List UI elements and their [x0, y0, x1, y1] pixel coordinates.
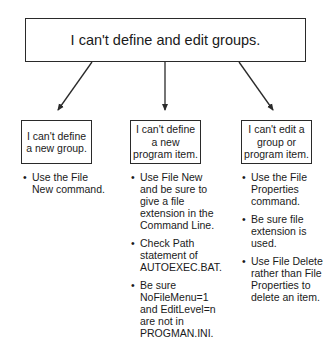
solution-item: • Use File Delete rather than File Prope… — [241, 255, 327, 303]
solution-item: • Use File New and be sure to give a fil… — [130, 171, 222, 231]
branch-box-new-group: I can't define a new group. — [21, 120, 92, 164]
branch-box-edit-group-or-item: I can't edit a group or program item. — [241, 120, 312, 164]
bullet-icon: • — [23, 171, 27, 183]
solution-text: Be sure NoFileMenu=1 and EditLevel=n are… — [140, 279, 216, 339]
solutions-list-edit-group-or-item: • Use the File Properties command. • Be … — [241, 171, 327, 309]
arrow-to-edit-group — [239, 62, 273, 110]
solution-text: Use the File New command. — [32, 171, 105, 195]
solution-item: • Be sure file extension is used. — [241, 213, 327, 249]
solutions-list-new-group: • Use the File New command. — [22, 171, 106, 201]
solution-item: • Use the File New command. — [22, 171, 106, 195]
bullet-icon: • — [242, 213, 246, 225]
solution-text: Use File Delete rather than File Propert… — [251, 255, 323, 303]
branch-box-new-program-item: I can't define a new program item. — [130, 120, 201, 164]
solution-text: Check Path statement of AUTOEXEC.BAT. — [140, 237, 222, 273]
branch-label: I can't define a new group. — [24, 130, 89, 155]
bullet-icon: • — [131, 279, 135, 291]
bullet-icon: • — [242, 255, 246, 267]
bullet-icon: • — [131, 237, 135, 249]
root-problem-label: I can't define and edit groups. — [71, 32, 261, 48]
branch-label: I can't define a new program item. — [133, 123, 198, 161]
arrow-to-new-group — [58, 62, 92, 110]
bullet-icon: • — [131, 171, 135, 183]
bullet-icon: • — [242, 171, 246, 183]
branch-label: I can't edit a group or program item. — [244, 123, 309, 161]
solution-item: • Check Path statement of AUTOEXEC.BAT. — [130, 237, 222, 273]
solutions-list-new-program-item: • Use File New and be sure to give a fil… — [130, 171, 222, 341]
solution-item: • Use the File Properties command. — [241, 171, 327, 207]
root-problem-box: I can't define and edit groups. — [25, 18, 306, 62]
solution-text: Be sure file extension is used. — [251, 213, 306, 249]
solution-text: Use the File Properties command. — [251, 171, 307, 207]
solution-item: • Be sure NoFileMenu=1 and EditLevel=n a… — [130, 279, 222, 339]
solution-text: Use File New and be sure to give a file … — [140, 171, 214, 231]
